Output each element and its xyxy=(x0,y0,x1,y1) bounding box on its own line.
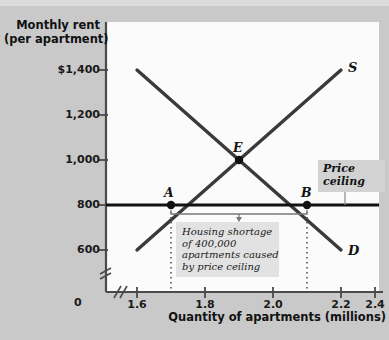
x-axis-title: Quantity of apartments (millions) xyxy=(150,310,386,324)
point-e-label: E xyxy=(233,140,243,155)
x-tick-label-2-0: 2.0 xyxy=(253,298,293,311)
x-tick-label-1-8: 1.8 xyxy=(185,298,225,311)
point-e-marker xyxy=(235,156,243,164)
shortage-callout-line4: by price ceiling xyxy=(182,261,260,272)
y-axis-title-line1: Monthly rent xyxy=(16,18,100,32)
y-tick-label-1000: 1,000 xyxy=(20,153,100,166)
shortage-callout-line2: of 400,000 xyxy=(182,238,236,249)
shortage-callout-line3: apartments caused xyxy=(182,249,279,260)
point-b-marker xyxy=(303,201,311,209)
shortage-callout-line1: Housing shortage xyxy=(182,226,272,237)
point-b-label: B xyxy=(301,185,312,200)
y-axis-title: Monthly rent(per apartment) xyxy=(4,18,100,46)
x-tick-label-2-4: 2.4 xyxy=(355,298,389,311)
price-ceiling-callout-line2: ceiling xyxy=(323,175,365,188)
x-tick-label-1-6: 1.6 xyxy=(117,298,157,311)
point-a-marker xyxy=(167,201,175,209)
price-ceiling-callout-line1: Price xyxy=(323,162,355,175)
price-ceiling-callout: Priceceiling xyxy=(318,160,385,192)
y-tick-label-1400: $1,400 xyxy=(20,63,100,76)
price-ceiling-chart: Monthly rent(per apartment) Quantity of … xyxy=(0,0,389,340)
y-tick-label-1200: 1,200 xyxy=(20,108,100,121)
supply-curve-label: S xyxy=(348,60,357,75)
y-axis-title-line2: (per apartment) xyxy=(4,32,109,46)
origin-label: 0 xyxy=(74,296,82,309)
y-tick-label-800: 800 xyxy=(20,198,100,211)
shortage-callout: Housing shortageof 400,000apartments cau… xyxy=(176,222,279,277)
point-a-label: A xyxy=(164,185,174,200)
y-tick-label-600: 600 xyxy=(20,243,100,256)
demand-curve-label: D xyxy=(348,243,359,258)
